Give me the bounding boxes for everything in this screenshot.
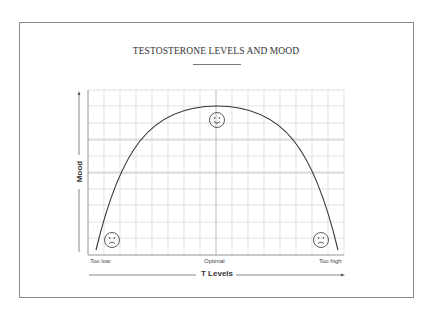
x-tick-optimal: Optimal xyxy=(204,258,225,264)
grid-major xyxy=(88,90,344,255)
y-axis-title: Mood xyxy=(75,157,84,187)
x-axis-title: T Levels xyxy=(198,269,236,278)
sad-face-icon xyxy=(314,233,329,248)
happy-face-icon xyxy=(210,113,225,128)
x-tick-too-high: Too high xyxy=(319,258,342,264)
chart-plot xyxy=(0,0,432,334)
x-tick-too-low: Too low xyxy=(90,258,110,264)
sad-face-icon xyxy=(105,233,120,248)
